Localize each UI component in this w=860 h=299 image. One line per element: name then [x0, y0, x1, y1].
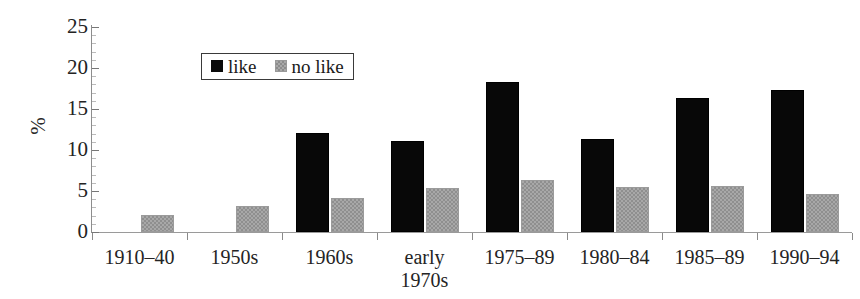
x-axis-tick: [662, 233, 663, 240]
bar-no-like-0: [141, 215, 174, 232]
bar-no-like-6: [711, 186, 744, 232]
legend-entry-like: like: [211, 57, 257, 76]
x-axis-tick: [852, 233, 853, 240]
x-axis-category-label: 1910–40: [92, 246, 187, 269]
x-axis-category-label: 1990–94: [757, 246, 852, 269]
bar-no-like-1: [236, 206, 269, 232]
x-axis-category-label: early 1970s: [377, 246, 472, 292]
y-axis-tick-label: 0: [42, 221, 88, 242]
x-axis-category-label: 1975–89: [472, 246, 567, 269]
x-axis-category-label: 1950s: [187, 246, 282, 269]
legend-entry-no-like: no like: [275, 57, 344, 76]
y-axis-tick-label: 25: [42, 16, 88, 37]
x-axis-tick: [757, 233, 758, 240]
chart-legend: like no like: [201, 53, 354, 80]
x-axis-tick: [187, 233, 188, 240]
y-axis-tick-label: 20: [42, 57, 88, 78]
x-axis-tick: [282, 233, 283, 240]
y-axis-tick-label: 10: [42, 139, 88, 160]
bar-like-2: [296, 133, 329, 232]
x-axis-tick: [472, 233, 473, 240]
bar-chart-figure: % 0510152025 1910–401950s1960searly 1970…: [0, 0, 860, 299]
y-axis-tick-labels: 0510152025: [30, 0, 88, 299]
bar-like-7: [771, 90, 804, 232]
bar-no-like-5: [616, 187, 649, 232]
x-axis-category-label: 1980–84: [567, 246, 662, 269]
like-swatch-icon: [211, 60, 223, 72]
bar-like-5: [581, 139, 614, 232]
x-axis-tick: [377, 233, 378, 240]
legend-label-like: like: [228, 57, 257, 76]
x-axis-category-label: 1960s: [282, 246, 377, 269]
bar-no-like-3: [426, 188, 459, 232]
y-axis-major-tick: [92, 232, 99, 233]
bar-no-like-7: [806, 194, 839, 232]
y-axis-tick-label: 15: [42, 98, 88, 119]
bar-like-6: [676, 98, 709, 232]
legend-label-no-like: no like: [292, 57, 344, 76]
x-axis-category-label: 1985–89: [662, 246, 757, 269]
x-axis-tick: [567, 233, 568, 240]
no-like-swatch-icon: [275, 60, 287, 72]
bar-like-4: [486, 82, 519, 232]
bar-like-3: [391, 141, 424, 232]
y-axis-tick-label: 5: [42, 180, 88, 201]
x-axis-tick: [92, 233, 93, 240]
bar-no-like-4: [521, 180, 554, 232]
bar-no-like-2: [331, 198, 364, 232]
